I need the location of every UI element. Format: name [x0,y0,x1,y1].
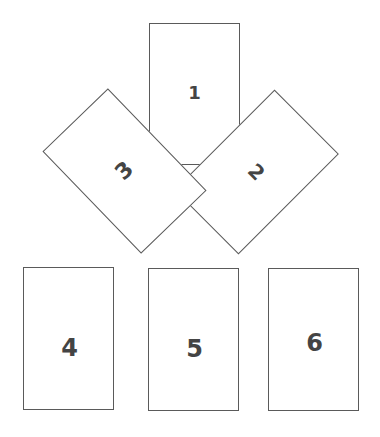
card-number: 1 [188,84,201,102]
card-number: 6 [306,331,323,355]
card-6: 6 [268,268,359,411]
card-4: 4 [23,267,114,410]
card-number: 3 [111,158,137,184]
card-number: 2 [245,160,269,184]
card-number: 4 [61,336,78,360]
card-number: 5 [186,337,203,361]
card-5: 5 [148,268,239,411]
